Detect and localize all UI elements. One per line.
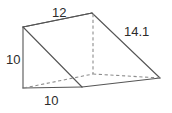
- edge-slant-right: [92, 13, 160, 78]
- edge-bottom-front: [23, 87, 82, 88]
- edge-bottom-right: [82, 78, 160, 87]
- dimension-label-top-edge: 12: [52, 6, 66, 19]
- triangular-prism-figure: 12 14.1 10 10: [0, 0, 172, 113]
- edge-hidden-bottom-left: [24, 74, 93, 88]
- dimension-label-slant-edge: 14.1: [124, 25, 149, 38]
- prism-wireframe: [0, 0, 172, 113]
- edge-hidden-bottom-right: [93, 74, 160, 78]
- edge-front-hypotenuse: [23, 27, 82, 87]
- dimension-label-bottom-edge: 10: [44, 94, 58, 107]
- dimension-label-left-height: 10: [6, 53, 20, 66]
